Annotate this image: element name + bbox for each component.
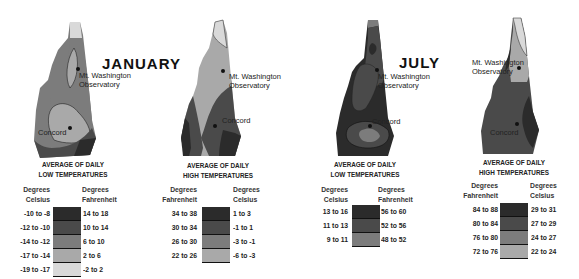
july-high-panel: JULY Mt. Washington Observatory Concord … <box>435 0 579 279</box>
legend-row-right-value: 2 to 6 <box>83 251 101 261</box>
observatory-label-line2: Observatory <box>229 81 281 90</box>
observatory-label-line1: Mt. Washington <box>378 72 430 81</box>
legend-color-swatch <box>202 235 230 249</box>
legend-row-right-value: 52 to 56 <box>381 221 406 231</box>
observatory-label-line1: Mt. Washington <box>472 58 524 67</box>
legend-row-left-value: 11 to 13 <box>299 221 348 231</box>
month-title-january: JANUARY <box>102 55 181 72</box>
observatory-label-line1: Mt. Washington <box>79 71 131 80</box>
legend-row-right-value: 29 to 31 <box>531 205 556 215</box>
legend-title-line1: AVERAGE OF DAILY <box>171 161 265 171</box>
legend-title-line1: AVERAGE OF DAILY <box>26 160 120 170</box>
legend-row-right-value: 27 to 29 <box>531 219 556 229</box>
legend-right-header: Degrees Fahrenheit <box>82 185 133 205</box>
legend-right-header: Degrees Celsius <box>233 185 276 205</box>
legend-color-swatch <box>352 233 380 247</box>
header-line1: Degrees <box>444 181 498 191</box>
header-line2: Celsius <box>8 195 51 205</box>
legend-row-left-value: 76 to 80 <box>444 233 498 243</box>
legend-right-header: Degrees Fahrenheit <box>378 185 425 205</box>
legend-color-swatch <box>53 263 81 277</box>
legend-color-swatch <box>202 221 230 235</box>
header-line1: Degrees <box>233 185 276 195</box>
legend-row-left-value: 72 to 76 <box>444 247 498 257</box>
legend-row-left-value: 34 to 38 <box>153 209 197 219</box>
legend-row-left-value: 9 to 11 <box>299 235 348 245</box>
legend-title-line2: HIGH TEMPERATURES <box>467 168 561 178</box>
observatory-label: Mt. Washington Observatory <box>79 71 131 89</box>
legend-row-right-value: 56 to 60 <box>381 207 406 217</box>
header-line1: Degrees <box>82 185 133 195</box>
header-line2: Fahrenheit <box>82 195 133 205</box>
legend-title-line2: LOW TEMPERATURES <box>318 170 412 180</box>
legend-row-left-value: 30 to 34 <box>153 223 197 233</box>
header-line1: Degrees <box>299 185 348 195</box>
legend-title-line2: HIGH TEMPERATURES <box>171 171 265 181</box>
legend-title: AVERAGE OF DAILY HIGH TEMPERATURES <box>171 161 265 181</box>
legend-title: AVERAGE OF DAILY HIGH TEMPERATURES <box>467 158 561 178</box>
legend-color-swatch <box>53 207 81 221</box>
header-line1: Degrees <box>378 185 425 195</box>
legend-row-right-value: -6 to -3 <box>233 251 255 261</box>
legend-row-right-value: 14 to 18 <box>83 209 108 219</box>
july-low-panel: Mt. Washington Observatory Concord AVERA… <box>290 0 435 279</box>
legend-color-swatch <box>500 231 528 245</box>
january-low-panel: Mt. Washington Observatory Concord AVERA… <box>0 0 145 279</box>
header-line2: Fahrenheit <box>153 195 197 205</box>
january-high-panel: JANUARY Mt. Washington Observatory Conco… <box>145 0 290 279</box>
legend-color-swatch <box>53 235 81 249</box>
header-line2: Celsius <box>299 195 348 205</box>
legend-row-left-value: -19 to -17 <box>8 265 51 275</box>
legend-row-left-value: -14 to -12 <box>8 237 51 247</box>
legend-row-left-value: -17 to -14 <box>8 251 51 261</box>
legend-row-left-value: 26 to 30 <box>153 237 197 247</box>
legend-row-right-value: 24 to 27 <box>531 233 556 243</box>
legend-row-right-value: 1 to 3 <box>233 209 251 219</box>
observatory-label: Mt. Washington Observatory <box>472 58 524 76</box>
legend-row-right-value: -3 to -1 <box>233 237 255 247</box>
header-line2: Fahrenheit <box>378 195 425 205</box>
legend-title: AVERAGE OF DAILY LOW TEMPERATURES <box>318 160 412 180</box>
header-line2: Celsius <box>233 195 276 205</box>
january-low-map <box>30 20 100 160</box>
header-line2: Fahrenheit <box>444 191 498 201</box>
observatory-label-line2: Observatory <box>378 81 430 90</box>
legend-color-swatch <box>202 207 230 221</box>
observatory-label: Mt. Washington Observatory <box>229 72 281 90</box>
legend-row-right-value: 48 to 52 <box>381 235 406 245</box>
concord-label: Concord <box>372 117 400 126</box>
legend-left-header: Degrees Celsius <box>8 185 51 205</box>
legend-row-left-value: 22 to 26 <box>153 251 197 261</box>
legend-row-right-value: 6 to 10 <box>83 237 105 247</box>
legend-left-header: Degrees Celsius <box>299 185 348 205</box>
observatory-label-line1: Mt. Washington <box>229 72 281 81</box>
header-line1: Degrees <box>8 185 51 195</box>
legend-row-right-value: 22 to 24 <box>531 247 556 257</box>
legend-color-swatch <box>352 219 380 233</box>
legend-color-swatch <box>500 217 528 231</box>
legend-color-swatch <box>352 205 380 219</box>
legend-row-left-value: 13 to 16 <box>299 207 348 217</box>
legend-title: AVERAGE OF DAILY LOW TEMPERATURES <box>26 160 120 180</box>
legend-row-right-value: -2 to 2 <box>83 265 103 275</box>
legend-row-left-value: -12 to -10 <box>8 223 51 233</box>
concord-label: Concord <box>38 128 66 137</box>
header-line1: Degrees <box>153 185 197 195</box>
concord-label: Concord <box>490 128 518 137</box>
observatory-label-line2: Observatory <box>79 80 131 89</box>
concord-label: Concord <box>222 116 250 125</box>
legend-title-line1: AVERAGE OF DAILY <box>467 158 561 168</box>
legend-row-right-value: 10 to 14 <box>83 223 108 233</box>
legend-title-line2: LOW TEMPERATURES <box>26 170 120 180</box>
legend-row-left-value: 84 to 88 <box>444 205 498 215</box>
observatory-label: Mt. Washington Observatory <box>378 72 430 90</box>
header-line2: Celsius <box>530 191 571 201</box>
observatory-label-line2: Observatory <box>472 67 524 76</box>
legend-color-swatch <box>500 203 528 217</box>
legend-color-swatch <box>500 245 528 259</box>
legend-left-header: Degrees Fahrenheit <box>153 185 197 205</box>
legend-left-header: Degrees Fahrenheit <box>444 181 498 201</box>
legend-row-left-value: -10 to -8 <box>8 209 51 219</box>
month-title-july: JULY <box>399 54 440 71</box>
legend-color-swatch <box>53 221 81 235</box>
